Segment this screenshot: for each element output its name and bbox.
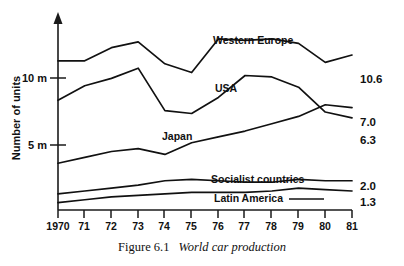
series-label-japan: Japan xyxy=(162,130,192,142)
y-axis-arrow-icon xyxy=(54,12,63,24)
end-value-usa: 6.3 xyxy=(360,134,376,146)
end-value-latin-america: 1.3 xyxy=(360,196,376,208)
x-tick-label-1977: 77 xyxy=(238,220,250,232)
end-value-western-europe: 10.6 xyxy=(360,73,382,85)
x-tick-label-1978: 78 xyxy=(265,220,277,232)
figure-caption-number: Figure 6.1 xyxy=(118,240,169,254)
y-tick-label-10m: 10 m xyxy=(22,72,47,84)
x-tick-label-1981: 81 xyxy=(346,220,358,232)
x-tick-label-1975: 75 xyxy=(185,220,197,232)
series-label-socialist-countries: Socialist countries xyxy=(211,173,305,185)
x-tick-label-1973: 73 xyxy=(132,220,144,232)
figure-container: 10 m 5 m Number of units 1970 71 72 73 7… xyxy=(0,0,404,266)
x-tick-label-1976: 76 xyxy=(212,220,224,232)
x-tick-label-1979: 79 xyxy=(292,220,304,232)
end-value-japan: 7.0 xyxy=(360,116,376,128)
x-tick-label-1970: 1970 xyxy=(46,220,70,232)
x-tick-label-1980: 80 xyxy=(319,220,331,232)
y-tick-label-5m: 5 m xyxy=(28,139,47,151)
x-tick-label-1971: 71 xyxy=(78,220,90,232)
y-axis-title: Number of units xyxy=(10,76,22,160)
series-label-usa: USA xyxy=(215,82,238,94)
x-tick-label-1974: 74 xyxy=(158,220,170,232)
line-chart: 10 m 5 m Number of units 1970 71 72 73 7… xyxy=(0,0,404,266)
series-label-latin-america: Latin America xyxy=(214,192,283,204)
end-value-socialist-countries: 2.0 xyxy=(360,180,376,192)
series-line-japan xyxy=(58,105,352,163)
series-label-western-europe: Western Europe xyxy=(213,34,293,46)
figure-caption-title: World car production xyxy=(178,240,285,254)
series-line-latin-america xyxy=(58,188,352,203)
figure-caption: Figure 6.1World car production xyxy=(0,240,404,255)
x-tick-label-1972: 72 xyxy=(105,220,117,232)
series-line-usa xyxy=(58,68,352,118)
series-line-western-europe xyxy=(58,39,352,73)
